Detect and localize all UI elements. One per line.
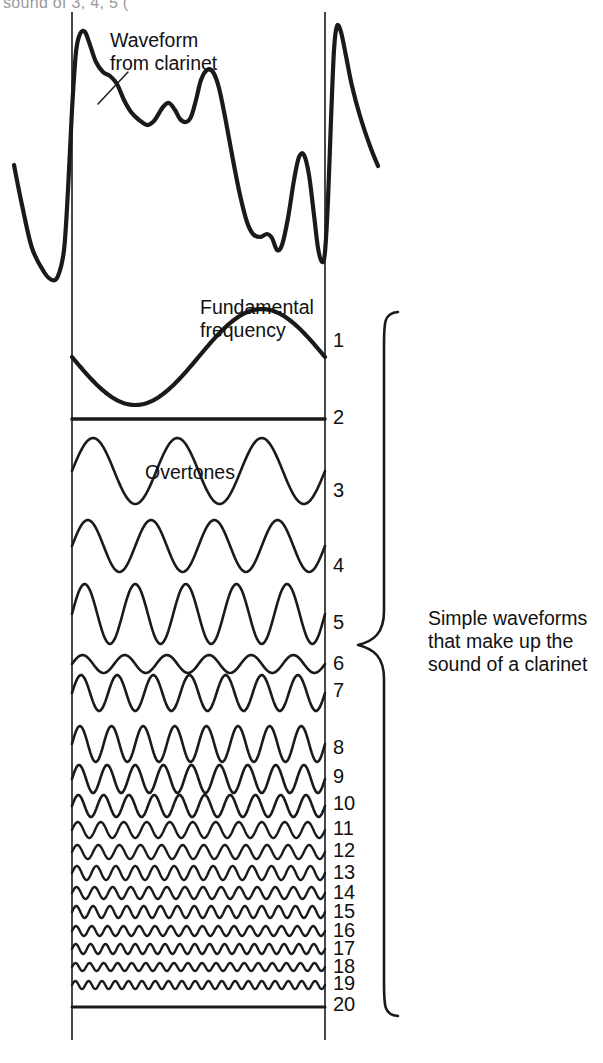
harmonic-number-19: 19 — [333, 972, 355, 995]
harmonic-wave-5 — [72, 584, 325, 644]
harmonic-number-6: 6 — [333, 652, 344, 675]
harmonic-number-9: 9 — [333, 765, 344, 788]
fundamental-leader — [180, 337, 215, 378]
axis-lines — [72, 12, 325, 1040]
clarinet-harmonics-figure: sound of 3, 4, 5 ( Waveform from clarine… — [0, 0, 603, 1063]
harmonic-number-7: 7 — [333, 679, 344, 702]
harmonic-wave-16 — [72, 926, 325, 936]
harmonic-number-1: 1 — [333, 329, 344, 352]
grouping-brace — [358, 312, 398, 1016]
harmonic-wave-14 — [72, 887, 325, 899]
harmonic-wave-8 — [72, 726, 325, 762]
harmonic-number-12: 12 — [333, 839, 355, 862]
fundamental-frequency-label: Fundamental frequency — [200, 296, 314, 342]
harmonic-wave-15 — [72, 906, 325, 918]
harmonic-wave-18 — [72, 963, 325, 971]
page-bleed-text: sound of 3, 4, 5 ( — [3, 0, 128, 13]
harmonic-wave-12 — [72, 845, 325, 859]
harmonic-wave-10 — [72, 795, 325, 817]
harmonic-number-5: 5 — [333, 611, 344, 634]
harmonic-number-8: 8 — [333, 736, 344, 759]
harmonic-wave-7 — [72, 675, 325, 711]
harmonic-wave-9 — [72, 765, 325, 793]
overtones-label: Overtones — [145, 461, 235, 484]
harmonic-wave-4 — [72, 520, 325, 572]
harmonic-number-4: 4 — [333, 554, 344, 577]
brace-path — [358, 312, 398, 1016]
harmonic-number-11: 11 — [333, 817, 354, 840]
harmonic-wave-11 — [72, 822, 325, 838]
waveform-from-clarinet-label: Waveform from clarinet — [110, 29, 217, 75]
brace-caption-label: Simple waveforms that make up the sound … — [428, 607, 587, 676]
harmonic-wave-17 — [72, 944, 325, 954]
harmonic-number-10: 10 — [333, 792, 355, 815]
harmonic-number-3: 3 — [333, 479, 344, 502]
figure-canvas — [0, 0, 603, 1063]
harmonic-number-20: 20 — [333, 993, 355, 1016]
harmonic-number-2: 2 — [333, 406, 344, 429]
harmonic-wave-13 — [72, 866, 325, 880]
harmonic-wave-19 — [72, 981, 325, 989]
harmonic-waveforms — [72, 309, 325, 1007]
harmonic-wave-6 — [72, 655, 325, 673]
